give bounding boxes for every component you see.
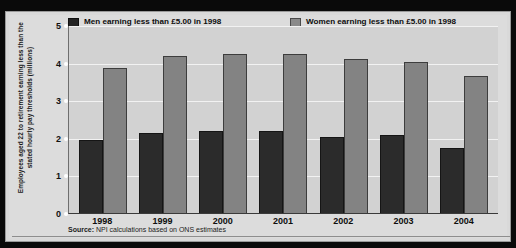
x-axis-label-2001: 2001 [253, 216, 313, 226]
bar-men-2002 [320, 137, 344, 213]
bar-men-2001 [259, 131, 283, 213]
bar-women-2001 [283, 54, 307, 213]
bar-group-2004 [434, 26, 494, 213]
y-tick-label-0: 0 [47, 209, 61, 219]
bar-men-1999 [139, 133, 163, 213]
chart-inner-panel: Employees aged 22 to retirement earning … [9, 15, 507, 238]
source-divider [12, 236, 510, 237]
y-tick-label-1: 1 [47, 171, 61, 181]
source-text: NPI calculations based on ONS estimates [94, 226, 226, 233]
bar-men-1998 [79, 140, 103, 213]
bar-group-2002 [314, 26, 374, 213]
x-axis-label-2003: 2003 [373, 216, 433, 226]
bar-men-2000 [199, 131, 223, 213]
source-prefix: Source: [68, 226, 94, 233]
bar-women-2000 [223, 54, 247, 213]
x-axis-labels: 1998199920002001200220032004 [68, 216, 498, 226]
bar-women-1999 [163, 56, 187, 213]
screenshot-root: Employees aged 22 to retirement earning … [0, 0, 516, 248]
bar-women-2002 [344, 59, 368, 213]
source-note: Source: NPI calculations based on ONS es… [68, 226, 226, 233]
bar-women-1998 [103, 68, 127, 214]
y-tick-label-3: 3 [47, 96, 61, 106]
bar-group-2003 [374, 26, 434, 213]
bar-men-2004 [440, 148, 464, 213]
bar-women-2003 [404, 62, 428, 213]
x-axis-label-2000: 2000 [193, 216, 253, 226]
y-tick-label-2: 2 [47, 134, 61, 144]
y-axis-title: Employees aged 22 to retirement earning … [17, 13, 34, 203]
y-tick-label-4: 4 [47, 59, 61, 69]
bar-group-1999 [133, 26, 193, 213]
bar-group-2001 [253, 26, 313, 213]
bar-groups [69, 26, 498, 213]
x-axis-label-2002: 2002 [313, 216, 373, 226]
x-axis-label-2004: 2004 [434, 216, 494, 226]
legend-label-women-line1: Women earning less than £5.00 in 1998 [306, 17, 456, 26]
chart-card: Employees aged 22 to retirement earning … [5, 11, 511, 242]
x-axis-label-1998: 1998 [72, 216, 132, 226]
legend-label-men-line1: Men earning less than £5.00 in 1998 [84, 17, 221, 26]
bar-group-1998 [73, 26, 133, 213]
y-tick-label-5: 5 [47, 21, 61, 31]
bar-men-2003 [380, 135, 404, 213]
plot-area [68, 26, 498, 214]
bar-women-2004 [464, 76, 488, 213]
bar-group-2000 [193, 26, 253, 213]
x-axis-label-1999: 1999 [132, 216, 192, 226]
